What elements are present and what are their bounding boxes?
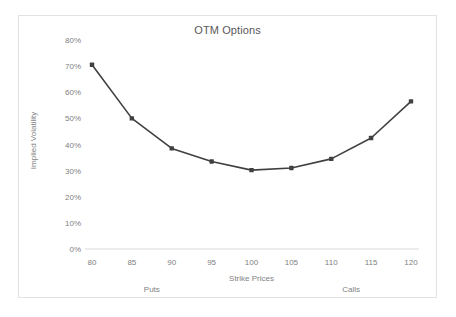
region-label-puts: Puts: [144, 285, 160, 294]
data-point-marker: 120: 56.5%: [409, 99, 413, 103]
x-axis-tick-labels: 80859095100105110115120: [88, 258, 419, 267]
data-point-marker: 85: 50%: [130, 116, 134, 120]
x-tick-label: 85: [127, 258, 136, 267]
data-point-marker: 80: 70.5%: [90, 63, 94, 67]
y-tick-label: 50%: [65, 114, 81, 123]
y-tick-label: 10%: [65, 219, 81, 228]
y-tick-label: 30%: [65, 167, 81, 176]
data-point-marker: 105: 31%: [289, 166, 293, 170]
y-tick-label: 40%: [65, 141, 81, 150]
x-tick-label: 110: [325, 258, 338, 267]
region-annotations: PutsCalls: [144, 285, 360, 294]
x-tick-label: 95: [207, 258, 216, 267]
data-point-marker: 110: 34.5%: [329, 157, 333, 161]
y-tick-label: 70%: [65, 62, 81, 71]
x-tick-label: 115: [365, 258, 378, 267]
data-point-marker: 115: 42.5%: [369, 136, 373, 140]
data-point-marker: 100: 30.2%: [249, 168, 253, 172]
x-axis-title: Strike Prices: [229, 274, 274, 283]
x-tick-label: 80: [88, 258, 97, 267]
x-tick-label: 120: [404, 258, 418, 267]
plot-area: 0%10%20%30%40%50%60%70%80% 8085909510010…: [19, 16, 438, 299]
x-tick-label: 90: [167, 258, 176, 267]
region-label-calls: Calls: [342, 285, 360, 294]
chart-container: OTM Options Implied Volatility 0%10%20%3…: [18, 15, 437, 298]
y-tick-label: 0%: [69, 245, 81, 254]
series-markers: 80: 70.5%85: 50%90: 38.5%95: 33.5%100: 3…: [90, 63, 413, 173]
y-tick-label: 80%: [65, 36, 81, 45]
y-tick-label: 60%: [65, 88, 81, 97]
y-tick-label: 20%: [65, 193, 81, 202]
data-point-marker: 90: 38.5%: [170, 146, 174, 150]
x-tick-label: 105: [285, 258, 299, 267]
series-line-implied-volatility: [92, 65, 411, 170]
x-tick-label: 100: [245, 258, 259, 267]
data-point-marker: 95: 33.5%: [209, 159, 213, 163]
y-axis-tick-labels: 0%10%20%30%40%50%60%70%80%: [65, 36, 81, 254]
